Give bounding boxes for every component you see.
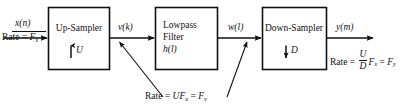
rate-input-subscript: x — [35, 36, 38, 43]
rate-output-fraction: UD — [359, 50, 368, 71]
rate-intermediate-equals: = — [188, 91, 198, 101]
rate-label-input: Rate = Fx — [2, 33, 38, 44]
rate-output-equals: = — [377, 57, 387, 67]
block-title-lowpass-line3: h(l) — [163, 45, 177, 55]
block-title-down-sampler: Down-Sampler — [261, 24, 327, 34]
signal-label-after-filter: w(l) — [228, 23, 243, 33]
rate-label-output: Rate = UDFx = Fy — [330, 50, 396, 71]
block-diagram-figure: x(n) Rate = Fx Up-Sampler U v(k) Lowpass… — [0, 0, 409, 107]
rate-output-numerator: U — [359, 50, 368, 60]
rate-intermediate-prefix: Rate = — [145, 91, 173, 101]
down-sampler-factor-label: D — [291, 46, 298, 56]
block-rect-down-sampler — [263, 8, 327, 70]
block-rect-up-sampler — [49, 8, 110, 70]
block-title-up-sampler: Up-Sampler — [49, 24, 110, 34]
up-sampler-factor-label: U — [76, 46, 83, 56]
rate-output-denominator: D — [359, 62, 368, 72]
rate-output-result-sub: y — [393, 60, 396, 67]
leader-line-to-w-l — [227, 42, 247, 97]
rate-intermediate-expr2-sub: v — [204, 95, 207, 102]
signal-label-input: x(n) — [15, 19, 30, 29]
block-title-lowpass-line2: Filter — [163, 33, 184, 43]
signal-label-output: y(m) — [336, 23, 353, 33]
block-title-lowpass-line1: Lowpass — [163, 21, 197, 31]
rate-intermediate-expr1: UF — [173, 91, 186, 101]
rate-input-prefix: Rate = — [2, 32, 30, 42]
rate-output-prefix: Rate = — [330, 57, 358, 67]
rate-label-intermediate: Rate = UFx = Fv — [145, 92, 207, 103]
signal-label-after-upsampler: v(k) — [118, 23, 133, 33]
